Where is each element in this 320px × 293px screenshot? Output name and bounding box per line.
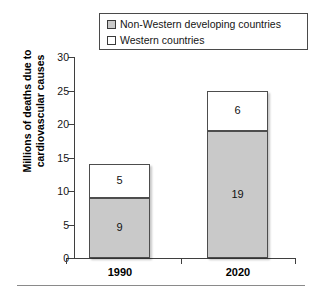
y-tick-label-20: 20 <box>45 119 69 129</box>
x-tick-label-2020: 2020 <box>203 266 273 278</box>
y-axis-line <box>74 57 75 259</box>
plot-area: 0 5 10 15 20 25 30 1990 2020 5 9 6 19 <box>0 0 320 293</box>
x-tick-end <box>295 258 296 264</box>
y-tick-label-10: 10 <box>45 186 69 196</box>
y-tick-label-25: 25 <box>45 86 69 96</box>
bar-2020-value-western: 6 <box>234 105 240 116</box>
x-tick-start <box>66 258 67 264</box>
bar-1990-segment-western[interactable]: 5 <box>89 164 150 198</box>
x-tick-label-1990: 1990 <box>85 266 155 278</box>
bar-2020-segment-non-western[interactable]: 19 <box>207 131 268 258</box>
bar-1990-value-western: 5 <box>116 175 122 186</box>
bar-1990[interactable]: 5 9 <box>89 164 150 258</box>
bar-2020-value-non-western: 19 <box>231 189 243 200</box>
bar-2020-segment-western[interactable]: 6 <box>207 91 268 131</box>
chart-figure: Non-Western developing countries Western… <box>0 0 320 293</box>
footer-divider <box>17 285 305 286</box>
x-tick-mid <box>181 258 182 264</box>
bar-2020[interactable]: 6 19 <box>207 91 268 259</box>
bar-1990-value-non-western: 9 <box>116 222 122 233</box>
y-tick-label-30: 30 <box>45 52 69 62</box>
y-tick-label-5: 5 <box>45 220 69 230</box>
y-tick-label-15: 15 <box>45 153 69 163</box>
bar-1990-segment-non-western[interactable]: 9 <box>89 198 150 258</box>
